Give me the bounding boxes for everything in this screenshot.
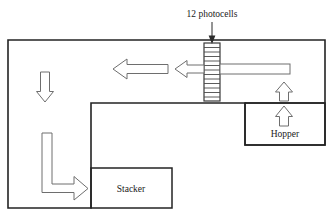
hopper-label: Hopper — [271, 129, 300, 139]
hopper-lift-upper-arrow — [276, 82, 293, 101]
feed-shaft-arrow — [220, 64, 290, 74]
hopper-lift-lower-arrow — [276, 106, 293, 126]
photocell-array — [204, 43, 220, 101]
photocells-label: 12 photocells — [187, 9, 238, 19]
left-descend-arrow — [37, 72, 54, 102]
stacker-label: Stacker — [117, 184, 146, 194]
ladder-output-arrow — [175, 61, 204, 78]
stacker-feed-arrow — [42, 133, 88, 200]
main-transfer-arrow — [113, 59, 168, 79]
diagram-canvas: Hopper Stacker 12 photocells — [0, 0, 332, 214]
